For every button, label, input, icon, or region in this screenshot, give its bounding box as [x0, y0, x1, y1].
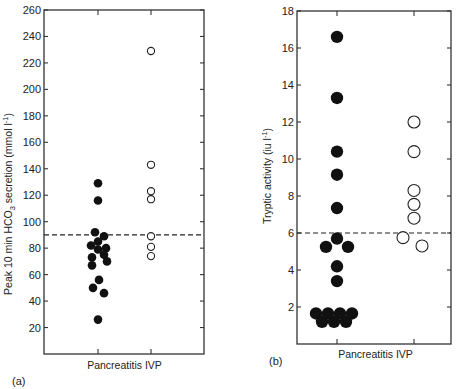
y-tick-label: 180 — [23, 110, 41, 122]
data-point-open — [416, 240, 428, 252]
data-point-filled — [331, 275, 343, 287]
data-point-filled — [320, 241, 332, 253]
plot-frame — [297, 11, 451, 344]
category-axis-label: Pancreatitis IVP — [338, 348, 413, 360]
y-tick-label: 14 — [282, 79, 294, 91]
y-tick-label: 120 — [23, 189, 41, 201]
y-tick-label: 20 — [29, 322, 41, 334]
y-tick-label: 8 — [288, 190, 294, 202]
y-axis-label: Tryptic activity (iu l-1) — [260, 128, 273, 224]
data-point-open — [397, 232, 409, 244]
data-point-open — [408, 146, 420, 158]
chart-panel-b: 24681012141618Pancreatitis IVPTryptic ac… — [260, 5, 451, 367]
y-tick-label: 10 — [282, 153, 294, 165]
data-point-filled — [88, 253, 97, 262]
y-tick-label: 40 — [29, 295, 41, 307]
y-tick-label: 160 — [23, 136, 41, 148]
data-point-open — [147, 47, 154, 54]
data-point-filled — [91, 228, 100, 237]
data-point-filled — [331, 145, 343, 157]
data-point-filled — [89, 284, 98, 293]
y-axis-label: Peak 10 min HCO3 secretion (mmol l-1) — [1, 113, 17, 295]
y-tick-label: 16 — [282, 42, 294, 54]
data-point-open — [408, 212, 420, 224]
y-tick-label: 220 — [23, 57, 41, 69]
data-point-filled — [94, 179, 103, 188]
y-tick-label: 2 — [288, 301, 294, 313]
plot-frame — [44, 10, 204, 354]
data-point-filled — [95, 276, 104, 285]
data-point-open — [408, 184, 420, 196]
chart-panel-a: 20406080100120140160180200220240260Pancr… — [1, 4, 204, 387]
data-point-open — [147, 188, 154, 195]
y-tick-label: 200 — [23, 83, 41, 95]
y-tick-label: 80 — [29, 242, 41, 254]
data-point-filled — [316, 316, 328, 328]
data-point-filled — [331, 260, 343, 272]
y-tick-label: 18 — [282, 5, 294, 17]
y-tick-label: 12 — [282, 116, 294, 128]
data-point-filled — [103, 257, 112, 266]
data-point-filled — [328, 316, 340, 328]
y-tick-label: 6 — [288, 227, 294, 239]
y-tick-label: 260 — [23, 4, 41, 16]
panel-label: (b) — [269, 355, 282, 367]
data-point-open — [147, 243, 154, 250]
data-point-filled — [331, 169, 343, 181]
data-point-filled — [331, 202, 343, 214]
data-point-open — [147, 233, 154, 240]
data-point-open — [147, 252, 154, 259]
y-tick-label: 100 — [23, 216, 41, 228]
data-point-filled — [331, 232, 343, 244]
data-point-filled — [342, 241, 354, 253]
data-point-filled — [100, 289, 109, 298]
y-tick-label: 60 — [29, 269, 41, 281]
category-axis-label: Pancreatitis IVP — [87, 359, 162, 371]
figure: 20406080100120140160180200220240260Pancr… — [0, 0, 460, 389]
y-tick-label: 4 — [288, 264, 294, 276]
data-point-open — [147, 161, 154, 168]
y-tick-label: 240 — [23, 30, 41, 42]
data-point-open — [408, 198, 420, 210]
data-point-filled — [331, 31, 343, 43]
data-point-filled — [88, 261, 97, 270]
data-point-filled — [340, 316, 352, 328]
y-tick-label: 140 — [23, 163, 41, 175]
data-point-open — [408, 116, 420, 128]
data-point-open — [147, 196, 154, 203]
data-point-filled — [94, 196, 103, 205]
data-point-filled — [331, 92, 343, 104]
data-point-filled — [94, 315, 103, 324]
panel-label: (a) — [12, 375, 25, 387]
